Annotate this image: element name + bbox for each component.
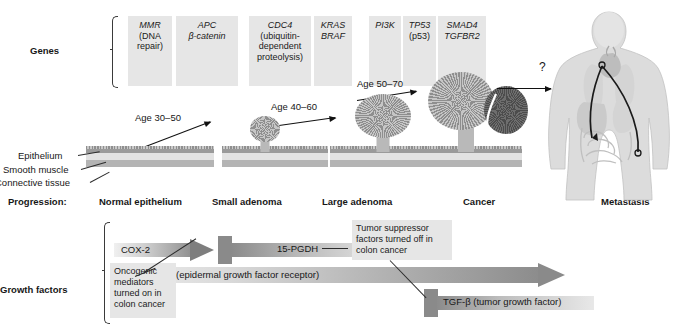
smooth-muscle-layer: [86, 153, 214, 160]
stage-label-normal-epithelium: Normal epithelium: [99, 196, 182, 207]
gene-subtitle: (p53): [406, 31, 433, 42]
callout-suppressor-text: Tumor suppressor factors turned off in c…: [356, 223, 433, 255]
smooth-muscle-layer: [430, 153, 522, 160]
tissue-normal-epithelium: [86, 148, 214, 167]
gene-box-cdc4: CDC4(ubiquitin-dependent proteolysis): [249, 16, 311, 86]
stage-label-small-adenoma: Small adenoma: [212, 196, 282, 207]
polyp-large-adenoma: [348, 94, 418, 152]
connective-tissue-layer: [330, 160, 434, 167]
progression-row-label: Progression:: [8, 196, 67, 207]
gene-subtitle: TGFBR2: [441, 31, 483, 42]
smooth-muscle-layer: [330, 153, 434, 160]
gene-box-apc: APCβ-catenin: [176, 16, 238, 86]
gene-name: CDC4: [252, 20, 308, 31]
polyp-head: [355, 94, 411, 138]
leader-connective-tissue: [90, 172, 110, 183]
gene-box-mmr: MMR(DNA repair): [128, 16, 172, 86]
tissue-label-smooth-muscle: Smooth muscle: [3, 164, 68, 175]
connective-tissue-layer: [222, 160, 328, 167]
gene-box-pi3k: PI3K: [369, 16, 401, 86]
genes-row-label: Genes: [30, 45, 59, 56]
gene-name: KRAS: [317, 20, 349, 31]
stage-label-large-adenoma: Large adenoma: [322, 196, 392, 207]
gene-subtitle: (DNA repair): [131, 31, 169, 52]
cox2-arrow-head-icon: [190, 238, 216, 262]
age-label-3: Age 50–70: [357, 78, 403, 89]
figure-canvas: Genes MMR(DNA repair)APCβ-cateninCDC4(ub…: [0, 0, 679, 330]
polyp-head: [250, 116, 280, 142]
callout-tumor-suppressor: Tumor suppressor factors turned off in c…: [352, 220, 452, 260]
gene-subtitle: BRAF: [317, 31, 349, 42]
tgfb-label: TGF-β (tumor growth factor): [443, 296, 561, 307]
invasion-arrow-icon: [424, 72, 528, 152]
polyp-small-adenoma: [243, 116, 287, 152]
gene-name: TP53: [406, 20, 433, 31]
gene-box-kras: KRASBRAF: [314, 16, 352, 86]
gene-subtitle: (ubiquitin-dependent proteolysis): [252, 31, 308, 63]
growth-factors-row-label: Growth factors: [0, 284, 68, 295]
human-body-figure: [540, 6, 679, 206]
cox2-label: COX-2: [121, 244, 150, 255]
connective-tissue-layer: [430, 160, 522, 167]
leader-pgdh-to-callout: [322, 248, 348, 249]
gene-name: MMR: [131, 20, 169, 31]
stage-label-cancer: Cancer: [463, 196, 495, 207]
pgdh-label: 15-PGDH: [277, 243, 318, 254]
gene-subtitle: β-catenin: [179, 31, 235, 42]
age-label-2: Age 40–60: [271, 101, 317, 112]
gene-name: APC: [179, 20, 235, 31]
smooth-muscle-layer: [222, 153, 328, 160]
age-label-1: Age 30–50: [135, 112, 181, 123]
tissue-label-connective-tissue: Connective tissue: [0, 177, 70, 188]
gene-name: SMAD4: [441, 20, 483, 31]
tissue-label-epithelium: Epithelium: [18, 150, 62, 161]
egfr-arrow-head-icon: [538, 262, 568, 288]
gene-name: PI3K: [372, 20, 398, 31]
genes-brace: [112, 16, 118, 88]
polyp-cancer: [424, 72, 528, 152]
callout-oncogenic-text: Oncogenic mediators turned on in colon c…: [114, 266, 165, 309]
